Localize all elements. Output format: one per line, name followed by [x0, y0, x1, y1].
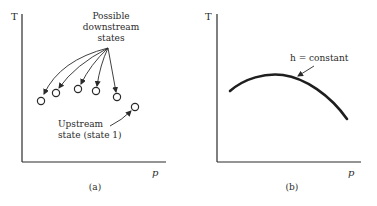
downstream-label-line-2: downstream — [83, 22, 140, 32]
upstream-arrow — [110, 111, 131, 126]
downstream-state-marker — [37, 97, 44, 104]
upstream-label-line-2: state (state 1) — [58, 130, 122, 140]
panel-b: T p (b) h = constant — [205, 11, 361, 192]
upstream-state-marker — [131, 103, 138, 110]
panel-a-x-label: p — [152, 167, 159, 178]
downstream-states — [37, 85, 120, 104]
upstream-label-line-1: Upstream — [58, 119, 104, 129]
downstream-label-line-1: Possible — [92, 11, 129, 21]
panel-b-caption: (b) — [286, 182, 299, 192]
panel-b-x-label: p — [348, 167, 355, 178]
curve-label-arrow — [298, 66, 314, 76]
panel-a: T p (a) Possible downstream states Upstr… — [11, 11, 166, 192]
downstream-state-marker — [74, 85, 81, 92]
downstream-state-marker — [92, 87, 99, 94]
downstream-label-line-3: states — [97, 33, 125, 43]
panel-a-y-label: T — [11, 11, 18, 22]
throttling-diagram: T p (a) Possible downstream states Upstr… — [0, 0, 377, 206]
downstream-state-marker — [52, 89, 59, 96]
panel-a-caption: (a) — [89, 182, 101, 192]
curve-label: h = constant — [290, 53, 349, 63]
panel-b-y-label: T — [205, 11, 212, 22]
constant-enthalpy-curve — [230, 75, 347, 119]
downstream-state-marker — [113, 93, 120, 100]
